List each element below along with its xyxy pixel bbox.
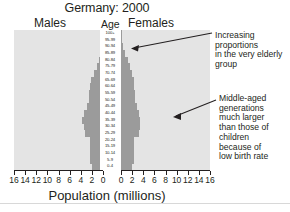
age-label-35-39: 35-39 [100,117,120,123]
age-label-60-64: 60-64 [100,83,120,89]
age-label-90-94: 90-94 [100,43,120,49]
tick-label-16: 16 [203,175,217,185]
age-label-100+: 100+ [100,30,120,36]
bar-females-70-74 [121,70,132,77]
bar-females-75-79 [121,63,130,70]
age-label-30-34: 30-34 [100,123,120,129]
bar-females-85-89 [121,50,125,57]
footer-spacer [0,205,290,212]
bar-females-65-69 [121,77,134,84]
bar-females-50-54 [121,97,135,104]
bar-females-40-44 [121,110,139,117]
age-label-25-29: 25-29 [100,130,120,136]
age-label-75-79: 75-79 [100,63,120,69]
annotation-middle-aged: Middle-aged generations much larger than… [219,94,290,162]
population-pyramid-figure: Germany: 2000 Males Age Females 0-45-910… [0,0,290,212]
bar-females-30-34 [121,123,140,130]
age-label-85-89: 85-89 [100,50,120,56]
chart-title: Germany: 2000 [0,1,214,15]
annotation-elderly: Increasing proportions in the very elder… [215,31,289,70]
age-label-95-99: 95-99 [100,37,120,43]
bar-females-10-14 [121,150,134,157]
x-axis-title: Population (millions) [0,188,214,203]
bar-females-100+ [121,30,122,37]
bar-females-95-99 [121,37,122,44]
bar-females-0-4 [121,163,132,170]
bar-females-15-19 [121,143,134,150]
age-label-20-24: 20-24 [100,137,120,143]
males-axis-label: Males [34,16,66,30]
age-band-label-column: 0-45-910-1415-1920-2425-2930-3435-3940-4… [100,30,120,170]
tick-label-0: 0 [96,175,110,185]
bar-females-5-9 [121,157,134,164]
age-axis-label: Age [101,18,120,30]
bar-females-90-94 [121,43,123,50]
age-label-55-59: 55-59 [100,90,120,96]
bar-females-35-39 [121,117,140,124]
age-label-40-44: 40-44 [100,110,120,116]
males-plot-area [14,30,103,170]
footer-divider [0,203,290,204]
age-label-70-74: 70-74 [100,70,120,76]
bar-females-25-29 [121,130,139,137]
bar-females-55-59 [121,90,135,97]
age-label-65-69: 65-69 [100,77,120,83]
females-plot-area [121,30,210,170]
age-label-5-9: 5-9 [100,157,120,163]
bar-females-45-49 [121,103,137,110]
age-label-45-49: 45-49 [100,103,120,109]
bar-females-20-24 [121,137,134,144]
bar-females-60-64 [121,83,134,90]
age-label-80-84: 80-84 [100,57,120,63]
females-axis-label: Females [128,16,174,30]
age-label-10-14: 10-14 [100,150,120,156]
bar-females-80-84 [121,57,128,64]
age-label-50-54: 50-54 [100,97,120,103]
age-label-15-19: 15-19 [100,143,120,149]
age-label-0-4: 0-4 [100,163,120,169]
